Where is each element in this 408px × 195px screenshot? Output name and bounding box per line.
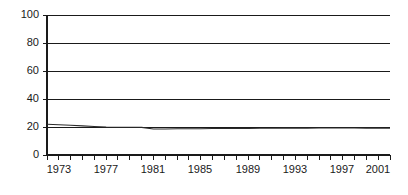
x-tick-label-1977: 1977 xyxy=(94,163,118,175)
x-tick-label-1985: 1985 xyxy=(188,163,212,175)
x-tick-label-1989: 1989 xyxy=(236,163,260,175)
y-tick-label-80: 80 xyxy=(27,36,39,48)
y-tick-label-40: 40 xyxy=(27,92,39,104)
x-tick-label-1997: 1997 xyxy=(330,163,354,175)
y-tick-label-20: 20 xyxy=(27,120,39,132)
x-tick-label-1981: 1981 xyxy=(141,163,165,175)
y-tick-label-60: 60 xyxy=(27,64,39,76)
x-tick-label-1993: 1993 xyxy=(283,163,307,175)
x-tick-label-1973: 1973 xyxy=(47,163,71,175)
y-tick-label-0: 0 xyxy=(33,148,39,160)
line-chart: 100 80 60 40 20 0 1973 1977 1981 1985 19… xyxy=(0,0,408,195)
x-tick-label-2001: 2001 xyxy=(366,163,390,175)
y-tick-label-100: 100 xyxy=(21,8,39,20)
chart-canvas: 100 80 60 40 20 0 1973 1977 1981 1985 19… xyxy=(0,0,408,195)
